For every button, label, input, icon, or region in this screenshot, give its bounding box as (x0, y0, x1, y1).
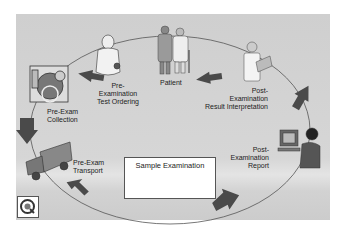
patient-illustration (158, 26, 189, 74)
arrow-icon (16, 118, 38, 144)
transport-truck-illustration (26, 142, 72, 180)
doctor-ordering-illustration (96, 35, 120, 75)
collection-illustration (30, 66, 68, 102)
transport-label: Pre-Exam Transport (73, 159, 104, 175)
report-label: Post- Examination Report (225, 146, 269, 170)
report-computer-illustration (278, 128, 320, 168)
test-ordering-label: Pre- Examination Test Ordering (93, 82, 143, 106)
patient-label: Patient (160, 79, 182, 87)
result-interpretation-label: Post- Examination Result Interpretation (200, 87, 268, 111)
sample-examination-label: Sample Examination (125, 161, 215, 170)
arrow-icon (195, 70, 222, 86)
arrow-icon (289, 82, 316, 113)
sample-examination-box: Sample Examination (124, 157, 216, 199)
logo-icon (17, 196, 39, 218)
arrow-icon (64, 175, 91, 197)
collection-label: Pre-Exam Collection (47, 108, 78, 124)
doctor-interpretation-illustration (244, 42, 272, 81)
